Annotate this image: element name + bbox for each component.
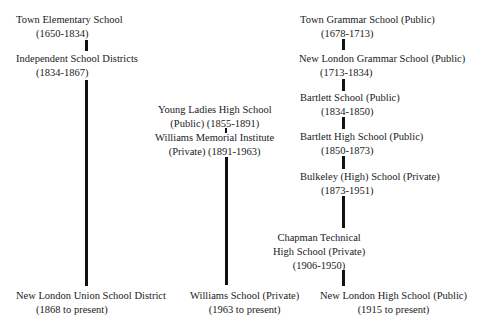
- node-new-london-high: New London High School (Public) (1915 to…: [320, 289, 467, 317]
- node-williams-school: Williams School (Private) (1963 to prese…: [190, 289, 299, 317]
- node-bartlett-school: Bartlett School (Public) (1834-1850): [300, 91, 400, 119]
- node-name: Town Elementary School: [16, 13, 123, 27]
- node-dates: (1906-1950): [273, 259, 365, 273]
- node-williams-memorial: Williams Memorial Institute (Private) (1…: [155, 131, 274, 159]
- connector-line: [342, 270, 345, 286]
- node-dates: (1650-1834): [16, 27, 123, 41]
- node-dates: (1868 to present): [16, 303, 166, 317]
- node-independent-districts: Independent School Districts (1834-1867): [16, 52, 138, 80]
- node-young-ladies-high: Young Ladies High School (Public) (1855-…: [158, 103, 272, 131]
- connector-line: [342, 79, 345, 91]
- node-name: Bulkeley (High) School (Private): [300, 170, 440, 184]
- node-name: Chapman Technical: [273, 231, 365, 245]
- node-bulkeley: Bulkeley (High) School (Private) (1873-1…: [300, 170, 440, 198]
- node-name-line2: High School (Private): [273, 245, 365, 259]
- connector-line: [342, 39, 345, 50]
- node-dates: (1963 to present): [190, 303, 299, 317]
- node-new-london-grammar: New London Grammar School (Public) (1713…: [299, 52, 465, 80]
- node-dates: (1834-1867): [16, 66, 138, 80]
- node-name: Young Ladies High School: [158, 103, 272, 117]
- node-dates: (Private) (1891-1963): [155, 145, 274, 159]
- node-name: Independent School Districts: [16, 52, 138, 66]
- node-bartlett-high: Bartlett High School (Public) (1850-1873…: [300, 130, 423, 158]
- connector-line: [342, 156, 345, 169]
- connector-line: [85, 80, 88, 286]
- node-name: Williams School (Private): [190, 289, 299, 303]
- connector-line: [342, 196, 345, 228]
- node-name: New London Grammar School (Public): [299, 52, 465, 66]
- node-dates: (Public) (1855-1891): [158, 117, 272, 131]
- node-dates: (1873-1951): [300, 184, 440, 198]
- node-name: New London High School (Public): [320, 289, 467, 303]
- connector-line: [342, 117, 345, 129]
- node-name: Town Grammar School (Public): [300, 13, 435, 27]
- node-name: Williams Memorial Institute: [155, 131, 274, 145]
- node-dates: (1850-1873): [300, 144, 423, 158]
- node-dates: (1834-1850): [300, 105, 400, 119]
- node-name: New London Union School District: [16, 289, 166, 303]
- connector-line: [85, 40, 88, 51]
- node-name: Bartlett School (Public): [300, 91, 400, 105]
- node-town-grammar: Town Grammar School (Public) (1678-1713): [300, 13, 435, 41]
- node-union-school-district: New London Union School District (1868 t…: [16, 289, 166, 317]
- node-chapman-technical: Chapman Technical High School (Private) …: [273, 231, 365, 273]
- node-dates: (1915 to present): [320, 303, 467, 317]
- node-town-elementary: Town Elementary School (1650-1834): [16, 13, 123, 41]
- node-dates: (1678-1713): [300, 27, 435, 41]
- node-dates: (1713-1834): [299, 66, 465, 80]
- node-name: Bartlett High School (Public): [300, 130, 423, 144]
- connector-line: [225, 157, 228, 285]
